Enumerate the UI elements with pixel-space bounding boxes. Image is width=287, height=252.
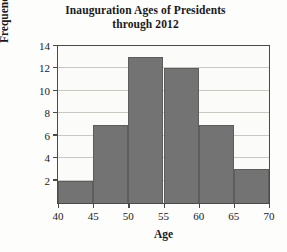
y-tick-mark	[53, 157, 58, 158]
y-tick-label: 4	[45, 152, 51, 164]
x-tick-mark	[58, 203, 59, 208]
x-tick-label: 55	[158, 210, 169, 222]
x-tick-mark	[164, 203, 165, 208]
histogram-figure: Inauguration Ages of Presidents through …	[0, 0, 287, 252]
plot-area: 2468101214 40455055606570	[57, 45, 270, 204]
x-tick-label: 50	[123, 210, 134, 222]
x-tick-mark	[269, 203, 270, 208]
y-tick-mark	[53, 90, 58, 91]
y-tick-mark	[53, 134, 58, 135]
y-axis-label: Frequency	[0, 0, 10, 72]
x-tick-label: 65	[228, 210, 239, 222]
x-tick-mark	[93, 203, 94, 208]
x-tick-label: 45	[88, 210, 99, 222]
y-tick-mark	[53, 179, 58, 180]
y-tick-mark	[53, 67, 58, 68]
y-tick-mark	[53, 45, 58, 46]
x-tick-label: 70	[264, 210, 275, 222]
y-tick-label: 10	[39, 85, 50, 97]
x-axis-label: Age	[57, 228, 270, 240]
x-tick-mark	[234, 203, 235, 208]
x-tick-label: 40	[53, 210, 64, 222]
chart-title-line-1: Inauguration Ages of Presidents	[18, 3, 273, 17]
y-tick-mark	[53, 112, 58, 113]
y-tick-label: 8	[45, 107, 51, 119]
y-tick-label: 14	[39, 40, 50, 52]
x-tick-mark	[199, 203, 200, 208]
chart-title: Inauguration Ages of Presidents through …	[18, 3, 273, 31]
y-tick-label: 6	[45, 130, 51, 142]
x-tick-label: 60	[193, 210, 204, 222]
x-tick-mark	[128, 203, 129, 208]
y-tick-label: 12	[39, 62, 50, 74]
chart-title-line-2: through 2012	[18, 17, 273, 31]
y-axis: 2468101214	[58, 46, 269, 203]
y-tick-label: 2	[45, 175, 51, 187]
